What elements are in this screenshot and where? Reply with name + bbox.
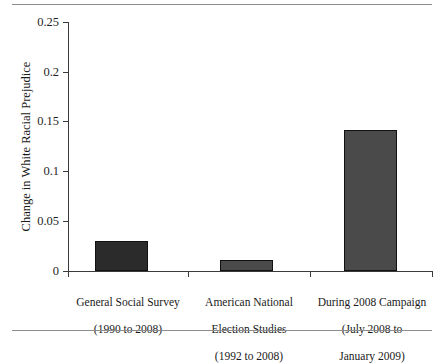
x-category-label-1-line-2: (1992 to 2008) xyxy=(215,350,283,362)
y-tick-label-0-2: 0.2 xyxy=(0,66,59,79)
x-category-label-2: During 2008 Campaign (July 2008 to Janua… xyxy=(306,282,438,363)
bar-during-2008-campaign xyxy=(344,130,397,271)
y-tick-label-0: 0 xyxy=(0,265,59,278)
x-category-label-1-line-1: Election Studies xyxy=(211,323,286,335)
x-category-label-0-line-1: (1990 to 2008) xyxy=(94,323,162,335)
y-tick-label-0-25: 0.25 xyxy=(0,16,59,29)
x-category-label-2-line-0: During 2008 Campaign xyxy=(318,296,427,308)
bar-general-social-survey xyxy=(95,241,148,271)
x-category-label-0-line-0: General Social Survey xyxy=(76,296,179,308)
bar-american-national-election-studies xyxy=(220,260,273,271)
x-category-label-0: General Social Survey (1990 to 2008) xyxy=(60,282,196,336)
x-category-label-2-line-1: (July 2008 to xyxy=(342,323,403,335)
y-axis-title: Change in White Racial Prejudice xyxy=(16,22,36,271)
x-category-label-1-line-0: American National xyxy=(205,296,293,308)
y-tick-label-0-05: 0.05 xyxy=(0,215,59,228)
plot-area xyxy=(68,22,432,271)
x-category-label-1: American National Election Studies (1992… xyxy=(186,282,312,363)
bottom-divider-rule xyxy=(12,330,432,331)
x-axis-line xyxy=(68,271,432,272)
y-tick-label-0-15: 0.15 xyxy=(0,115,59,128)
x-category-label-2-line-2: January 2009) xyxy=(339,350,404,362)
x-tick-mark-divider-1 xyxy=(188,271,189,277)
x-tick-mark-left-cap xyxy=(68,271,69,277)
y-tick-label-0-1: 0.1 xyxy=(0,165,59,178)
top-divider-rule xyxy=(12,4,432,5)
x-tick-mark-right-cap xyxy=(432,271,433,277)
x-tick-mark-divider-2 xyxy=(310,271,311,277)
